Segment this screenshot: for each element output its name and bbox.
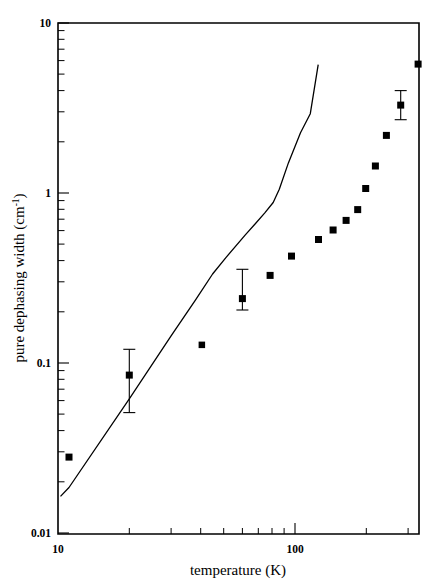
data-point xyxy=(330,227,337,234)
y-tick-label-0.01: 0.01 xyxy=(31,527,51,539)
x-axis-ticks xyxy=(129,523,408,534)
data-point xyxy=(199,342,206,349)
plot-frame xyxy=(58,23,419,534)
y-axis-minor-ticks xyxy=(58,31,65,482)
x-axis-title: temperature (K) xyxy=(190,562,286,579)
data-point xyxy=(288,253,295,260)
y-tick-labels: 10 1 0.1 0.01 xyxy=(31,17,51,539)
x-tick-labels: 10 100 xyxy=(52,543,304,555)
y-tick-label-0.1: 0.1 xyxy=(37,357,52,369)
data-point xyxy=(415,61,422,68)
data-point xyxy=(343,217,350,224)
data-point xyxy=(239,295,246,302)
data-point xyxy=(397,102,404,109)
error-bars xyxy=(123,91,406,413)
data-point xyxy=(362,185,369,192)
y-axis-title: pure dephasing width (cm-1) xyxy=(11,193,28,362)
x-tick-label-100: 100 xyxy=(286,543,304,555)
y-tick-label-1: 1 xyxy=(45,187,51,199)
svg-text:pure dephasing width (cm-1): pure dephasing width (cm-1) xyxy=(11,193,28,362)
data-point xyxy=(315,236,322,243)
data-point xyxy=(383,132,390,139)
data-point xyxy=(372,163,379,170)
data-point xyxy=(126,372,133,379)
y-axis-title-main: pure dephasing width (cm xyxy=(11,206,28,363)
x-tick-label-10: 10 xyxy=(52,543,64,555)
y-tick-label-10: 10 xyxy=(40,17,52,29)
dephasing-width-vs-temperature-chart: 10 1 0.1 0.01 10 100 temperature (K) pur… xyxy=(0,0,433,584)
figure-container: 10 1 0.1 0.01 10 100 temperature (K) pur… xyxy=(0,0,433,584)
y-axis-title-close: ) xyxy=(11,193,28,198)
data-markers xyxy=(66,61,422,461)
data-point xyxy=(66,454,73,461)
fit-guide-line xyxy=(61,65,319,497)
data-point xyxy=(354,206,361,213)
data-point xyxy=(267,272,274,279)
